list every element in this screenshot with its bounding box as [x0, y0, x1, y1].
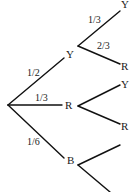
- prob-label-y-y: 1/3: [88, 14, 101, 25]
- prob-label-y-r: 2/3: [97, 40, 110, 51]
- prob-label-b: 1/6: [27, 136, 40, 147]
- node-y-r: R: [121, 60, 129, 72]
- branch-root-to-b: [8, 105, 64, 158]
- branch-b-lower: [78, 165, 110, 192]
- prob-label-y: 1/2: [27, 67, 40, 78]
- node-r-r: R: [121, 120, 129, 132]
- prob-label-r: 1/3: [35, 92, 48, 103]
- node-y: Y: [66, 48, 74, 60]
- branch-b-upper: [78, 145, 120, 165]
- probability-tree-diagram: 1/2 1/3 1/6 Y R B 1/3 2/3 Y R Y R: [0, 0, 133, 192]
- branch-r-to-y: [78, 85, 120, 106]
- node-r-y: Y: [121, 78, 129, 90]
- node-r: R: [65, 99, 73, 111]
- branch-r-to-r: [78, 106, 120, 124]
- node-y-y: Y: [121, 0, 129, 10]
- node-b: B: [67, 154, 74, 166]
